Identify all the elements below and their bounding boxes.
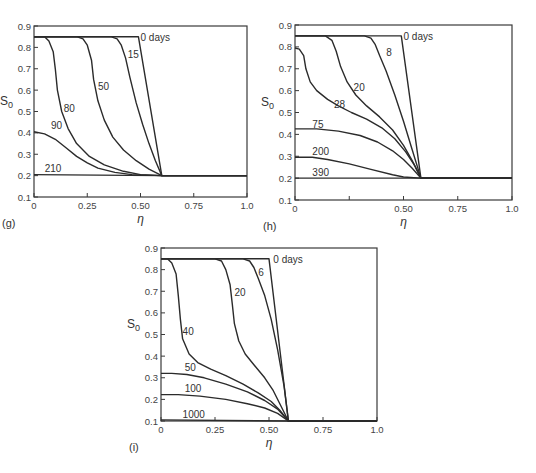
- y-tick-label: 0.8: [279, 41, 292, 52]
- y-tick-label: 0.7: [145, 286, 158, 297]
- curve-label: 50: [185, 362, 197, 373]
- x-tick-label: 1.0: [240, 200, 253, 211]
- x-axis-title: η: [266, 436, 273, 450]
- y-tick-label: 0.3: [145, 372, 158, 383]
- curve-label: 8: [386, 47, 392, 58]
- y-tick-label: 0.1: [279, 195, 292, 206]
- y-tick-label: 0.5: [279, 107, 292, 118]
- x-tick-label: 0.50: [394, 203, 413, 214]
- curve-label: 390: [312, 167, 329, 178]
- curve-label: 0 days: [273, 254, 302, 265]
- curve-6: [161, 259, 377, 421]
- curve-label: 28: [334, 99, 346, 110]
- y-tick-label: 0.5: [18, 106, 31, 117]
- y-tick-label: 0.7: [18, 63, 31, 74]
- y-tick-label: 0.8: [18, 42, 31, 53]
- curve-210: [34, 175, 247, 176]
- x-tick-label: 0: [158, 424, 163, 435]
- x-tick-label: 1.0: [505, 203, 518, 214]
- panel-label: (i): [129, 441, 139, 453]
- y-tick-label: 0.6: [145, 307, 158, 318]
- y-tick-label: 0.5: [145, 329, 158, 340]
- panel-h: 0.10.20.30.40.50.60.70.80.900.500.751.0η…: [261, 20, 519, 233]
- y-tick-label: 0.9: [145, 243, 158, 254]
- y-tick-label: 0.4: [145, 351, 158, 362]
- x-tick-label: 0: [292, 203, 297, 214]
- curve-label: 40: [183, 326, 195, 337]
- curve-label: 50: [98, 81, 110, 92]
- x-tick-label: 0: [31, 200, 36, 211]
- curve-40: [161, 259, 377, 421]
- y-tick-label: 0.3: [279, 151, 292, 162]
- panel-label: (g): [2, 217, 15, 229]
- curve-label: 1000: [183, 409, 206, 420]
- curve-90: [34, 132, 247, 176]
- curve-label: 75: [312, 119, 324, 130]
- panel-g: 0.10.20.30.40.50.60.70.80.900.250.500.75…: [0, 21, 254, 230]
- y-tick-label: 0.1: [145, 416, 158, 427]
- x-tick-label: 0.50: [260, 424, 279, 435]
- y-tick-label: 0.6: [279, 85, 292, 96]
- x-tick-label: 1.0: [370, 424, 383, 435]
- figure-canvas: 0.10.20.30.40.50.60.70.80.900.250.500.75…: [0, 0, 536, 473]
- x-tick-label: 0.75: [185, 200, 204, 211]
- curve-label: 80: [64, 103, 76, 114]
- x-tick-label: 0.25: [206, 424, 225, 435]
- x-tick-label: 0.75: [449, 203, 468, 214]
- y-tick-label: 0.2: [279, 173, 292, 184]
- curve-28: [295, 48, 512, 178]
- y-axis-title: S0: [127, 317, 140, 333]
- x-axis-title: η: [137, 212, 144, 226]
- x-tick-label: 0.25: [78, 200, 97, 211]
- curve-label: 20: [354, 82, 366, 93]
- curve-0-days: [161, 259, 377, 421]
- y-tick-label: 0.9: [18, 21, 31, 32]
- curve-label: 100: [185, 383, 202, 394]
- x-tick-label: 0.75: [314, 424, 333, 435]
- y-tick-label: 0.8: [145, 264, 158, 275]
- y-tick-label: 0.4: [18, 127, 31, 138]
- y-axis-title: S0: [261, 95, 274, 111]
- y-tick-label: 0.4: [279, 129, 292, 140]
- y-tick-label: 0.7: [279, 63, 292, 74]
- curve-label: 210: [45, 163, 62, 174]
- curve-label: 0 days: [141, 32, 170, 43]
- curve-label: 200: [312, 146, 329, 157]
- curve-label: 6: [258, 267, 264, 278]
- panel-i: 0.10.20.30.40.50.60.70.80.900.250.500.75…: [127, 243, 384, 454]
- curve-20: [161, 259, 377, 421]
- curve-label: 0 days: [404, 31, 433, 42]
- y-tick-label: 0.6: [18, 85, 31, 96]
- y-tick-label: 0.3: [18, 149, 31, 160]
- curve-label: 15: [128, 49, 140, 60]
- y-tick-label: 0.2: [18, 170, 31, 181]
- x-axis-title: η: [400, 215, 407, 229]
- y-axis-title: S0: [0, 94, 13, 110]
- y-tick-label: 0.1: [18, 192, 31, 203]
- x-tick-label: 0.50: [131, 200, 150, 211]
- y-tick-label: 0.9: [279, 20, 292, 31]
- y-tick-label: 0.2: [145, 394, 158, 405]
- panel-label: (h): [263, 220, 276, 232]
- curve-label: 20: [234, 287, 246, 298]
- curve-label: 90: [51, 120, 63, 131]
